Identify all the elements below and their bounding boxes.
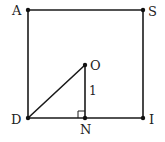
label-D: D [11,112,21,127]
label-N: N [80,122,91,137]
label-S: S [148,4,157,19]
point-D [26,116,30,120]
point-A [26,8,30,12]
label-A: A [11,3,22,18]
point-O [83,63,87,67]
label-O: O [90,58,101,73]
point-N [83,116,87,120]
point-I [141,116,145,120]
label-I: I [149,112,154,127]
geometry-diagram: A S I D O N 1 [0,0,165,142]
segment-DO [28,65,85,118]
measure-label-ON: 1 [89,84,97,98]
point-S [141,8,145,12]
